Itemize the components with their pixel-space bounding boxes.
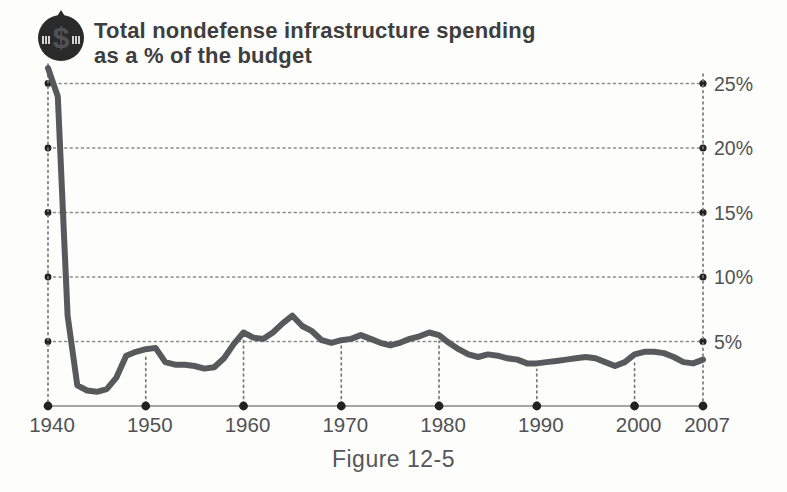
figure-page: 25%20%15%10%5%19401950196019701980199020… [0, 0, 787, 492]
x-tick-dot-1990 [532, 402, 541, 411]
x-tick-dot-1970 [337, 402, 346, 411]
y-tick-label: 10% [714, 266, 753, 288]
x-tick-label: 1970 [322, 413, 368, 436]
y-tick-label: 25% [714, 73, 753, 95]
figure-title-line1: Total nondefense infrastructure spending [94, 18, 536, 43]
dollar-sign-icon: $ [53, 21, 70, 54]
x-tick-label: 1950 [127, 413, 173, 436]
figure-title-line2: as a % of the budget [94, 43, 312, 68]
x-tick-label: 2000 [616, 413, 662, 436]
x-tick-label: 1960 [225, 413, 271, 436]
figure-title: Total nondefense infrastructure spending… [94, 18, 536, 68]
chart-canvas: 25%20%15%10%5%19401950196019701980199020… [0, 0, 787, 492]
y-tick-label: 5% [714, 331, 742, 353]
x-tick-label: 1980 [420, 413, 466, 436]
figure-header: $ Total nondefense infrastructure spendi… [36, 8, 536, 68]
data-line [48, 68, 703, 392]
x-tick-label: 2007 [684, 413, 730, 436]
money-coin-icon: $ [36, 8, 86, 62]
x-tick-label: 1990 [518, 413, 564, 436]
x-tick-label: 1940 [29, 413, 75, 436]
x-tick-dot-2000 [630, 402, 639, 411]
y-tick-label: 20% [714, 137, 753, 159]
x-tick-dot-1940 [44, 402, 53, 411]
y-tick-label: 15% [714, 202, 753, 224]
x-tick-dot-1980 [435, 402, 444, 411]
x-tick-dot-1950 [141, 402, 150, 411]
figure-caption: Figure 12-5 [0, 446, 787, 473]
x-tick-dot-2007 [699, 402, 708, 411]
x-tick-dot-1960 [239, 402, 248, 411]
